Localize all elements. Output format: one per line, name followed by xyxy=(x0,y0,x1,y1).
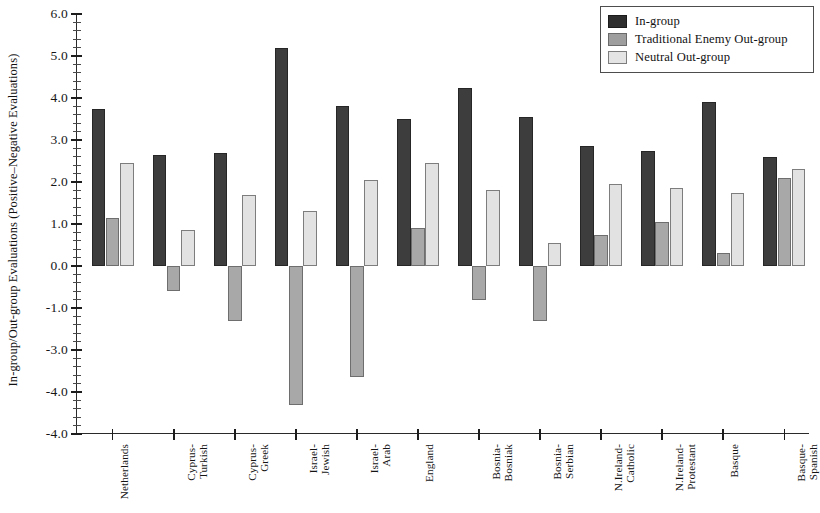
legend-swatch xyxy=(608,51,627,64)
x-axis-label-line: Arab xyxy=(380,444,392,513)
x-axis-tick-label: Cyprus-Turkish xyxy=(186,444,209,513)
x-axis-tick-label: N.Ireland-Protestant xyxy=(674,444,697,513)
bar xyxy=(336,106,350,266)
x-axis-tick-label: Bosnia-Bosniak xyxy=(491,444,514,513)
legend-item: Traditional Enemy Out-group xyxy=(608,30,807,48)
y-axis-tick-label: 4.0 xyxy=(51,90,68,106)
bar xyxy=(181,230,195,266)
x-axis-tick-label: Israel-Arab xyxy=(369,444,392,513)
y-axis-title: In-group/Out-group Evaluations (Positive… xyxy=(2,0,24,440)
x-axis-tick xyxy=(661,429,663,440)
x-axis-label-line: Jewish xyxy=(319,444,331,513)
x-axis-label-line: Bosnia- xyxy=(491,444,503,513)
bar xyxy=(289,266,303,405)
y-axis-tick-label: -1.0 xyxy=(46,300,68,316)
legend-label: In-group xyxy=(635,14,680,29)
x-axis-tick xyxy=(173,429,175,440)
x-axis-label-line: England xyxy=(424,444,436,513)
legend-label: Traditional Enemy Out-group xyxy=(635,32,788,47)
bar xyxy=(350,266,364,377)
y-axis-tick-label: 6.0 xyxy=(51,6,68,22)
legend-swatch xyxy=(608,15,627,28)
x-axis-tick-label: Netherlands xyxy=(119,444,131,513)
x-axis-tick xyxy=(478,429,480,440)
x-axis-label-line: Israel- xyxy=(308,444,320,513)
x-axis-tick-label: Bosnia-Serbian xyxy=(552,444,575,513)
legend-item: In-group xyxy=(608,12,807,30)
x-axis-label-line: Bosnia- xyxy=(552,444,564,513)
x-axis-label-line: Israel- xyxy=(369,444,381,513)
x-axis-label-line: Turkish xyxy=(197,444,209,513)
x-axis-tick xyxy=(295,429,297,440)
bar xyxy=(655,222,669,266)
bar xyxy=(548,243,562,266)
x-axis-tick xyxy=(234,429,236,440)
bar xyxy=(580,146,594,266)
bar xyxy=(731,193,745,267)
x-axis-tick xyxy=(600,429,602,440)
bar xyxy=(702,102,716,266)
bar xyxy=(670,188,684,266)
x-axis-label-line: Serbian xyxy=(564,444,576,513)
bar xyxy=(458,88,472,267)
x-axis-tick xyxy=(112,429,114,440)
y-axis-tick-label: -3.0 xyxy=(46,342,68,358)
bar xyxy=(519,117,533,266)
bar xyxy=(364,180,378,266)
bar xyxy=(717,253,731,266)
y-axis-tick-label: 5.0 xyxy=(51,48,68,64)
bar xyxy=(792,169,806,266)
bar xyxy=(533,266,547,321)
x-axis-label-line: Protestant xyxy=(686,444,698,513)
bar xyxy=(425,163,439,266)
x-axis-label-line: Spanish xyxy=(808,444,820,513)
x-axis-tick-label: Basque xyxy=(729,444,741,513)
bar xyxy=(214,153,228,266)
legend-item: Neutral Out-group xyxy=(608,48,807,66)
x-axis-label-line: Basque xyxy=(729,444,741,513)
bar xyxy=(411,228,425,266)
bar xyxy=(594,235,608,267)
y-axis-tick-label: 3.0 xyxy=(51,132,68,148)
x-axis-label-line: Bosniak xyxy=(503,444,515,513)
y-axis-tick-label: 1.0 xyxy=(51,216,68,232)
y-axis-tick-label: 0.0 xyxy=(51,258,68,274)
x-axis-tick xyxy=(356,429,358,440)
y-axis-tick-label: -4.0 xyxy=(46,426,68,442)
bar xyxy=(397,119,411,266)
x-axis-tick-label: Cyprus-Greek xyxy=(247,444,270,513)
bar xyxy=(242,195,256,266)
y-axis-tick-label: -4.0 xyxy=(46,384,68,400)
bar xyxy=(167,266,181,291)
bar xyxy=(228,266,242,321)
x-axis-tick-label: Basque-Spanish xyxy=(796,444,819,513)
bar xyxy=(472,266,486,300)
x-axis-label-line: Cyprus- xyxy=(186,444,198,513)
bar xyxy=(120,163,134,266)
x-axis-tick xyxy=(784,429,786,440)
bar xyxy=(641,151,655,267)
x-axis-label-line: Greek xyxy=(258,444,270,513)
x-axis-tick-label: England xyxy=(424,444,436,513)
x-axis-tick xyxy=(539,429,541,440)
bar xyxy=(153,155,167,266)
x-axis-tick xyxy=(722,429,724,440)
x-axis-labels: NetherlandsCyprus-TurkishCyprus-GreekIsr… xyxy=(76,434,809,513)
bars-layer xyxy=(76,14,809,434)
y-axis-tick-label: 2.0 xyxy=(51,174,68,190)
legend-swatch xyxy=(608,33,627,46)
x-axis-label-line: Netherlands xyxy=(119,444,131,513)
legend: In-groupTraditional Enemy Out-groupNeutr… xyxy=(600,6,814,73)
bar xyxy=(106,218,120,266)
plot-area: 6.05.04.03.02.01.00.0-1.0-3.0-4.0-4.0 xyxy=(76,14,809,434)
bar xyxy=(486,190,500,266)
bar xyxy=(763,157,777,266)
x-axis-tick xyxy=(417,429,419,440)
bar xyxy=(275,48,289,266)
bar xyxy=(778,178,792,266)
x-axis-tick-label: Israel-Jewish xyxy=(308,444,331,513)
bar xyxy=(609,184,623,266)
bar xyxy=(92,109,106,267)
x-axis-label-line: Cyprus- xyxy=(247,444,259,513)
legend-label: Neutral Out-group xyxy=(635,50,730,65)
